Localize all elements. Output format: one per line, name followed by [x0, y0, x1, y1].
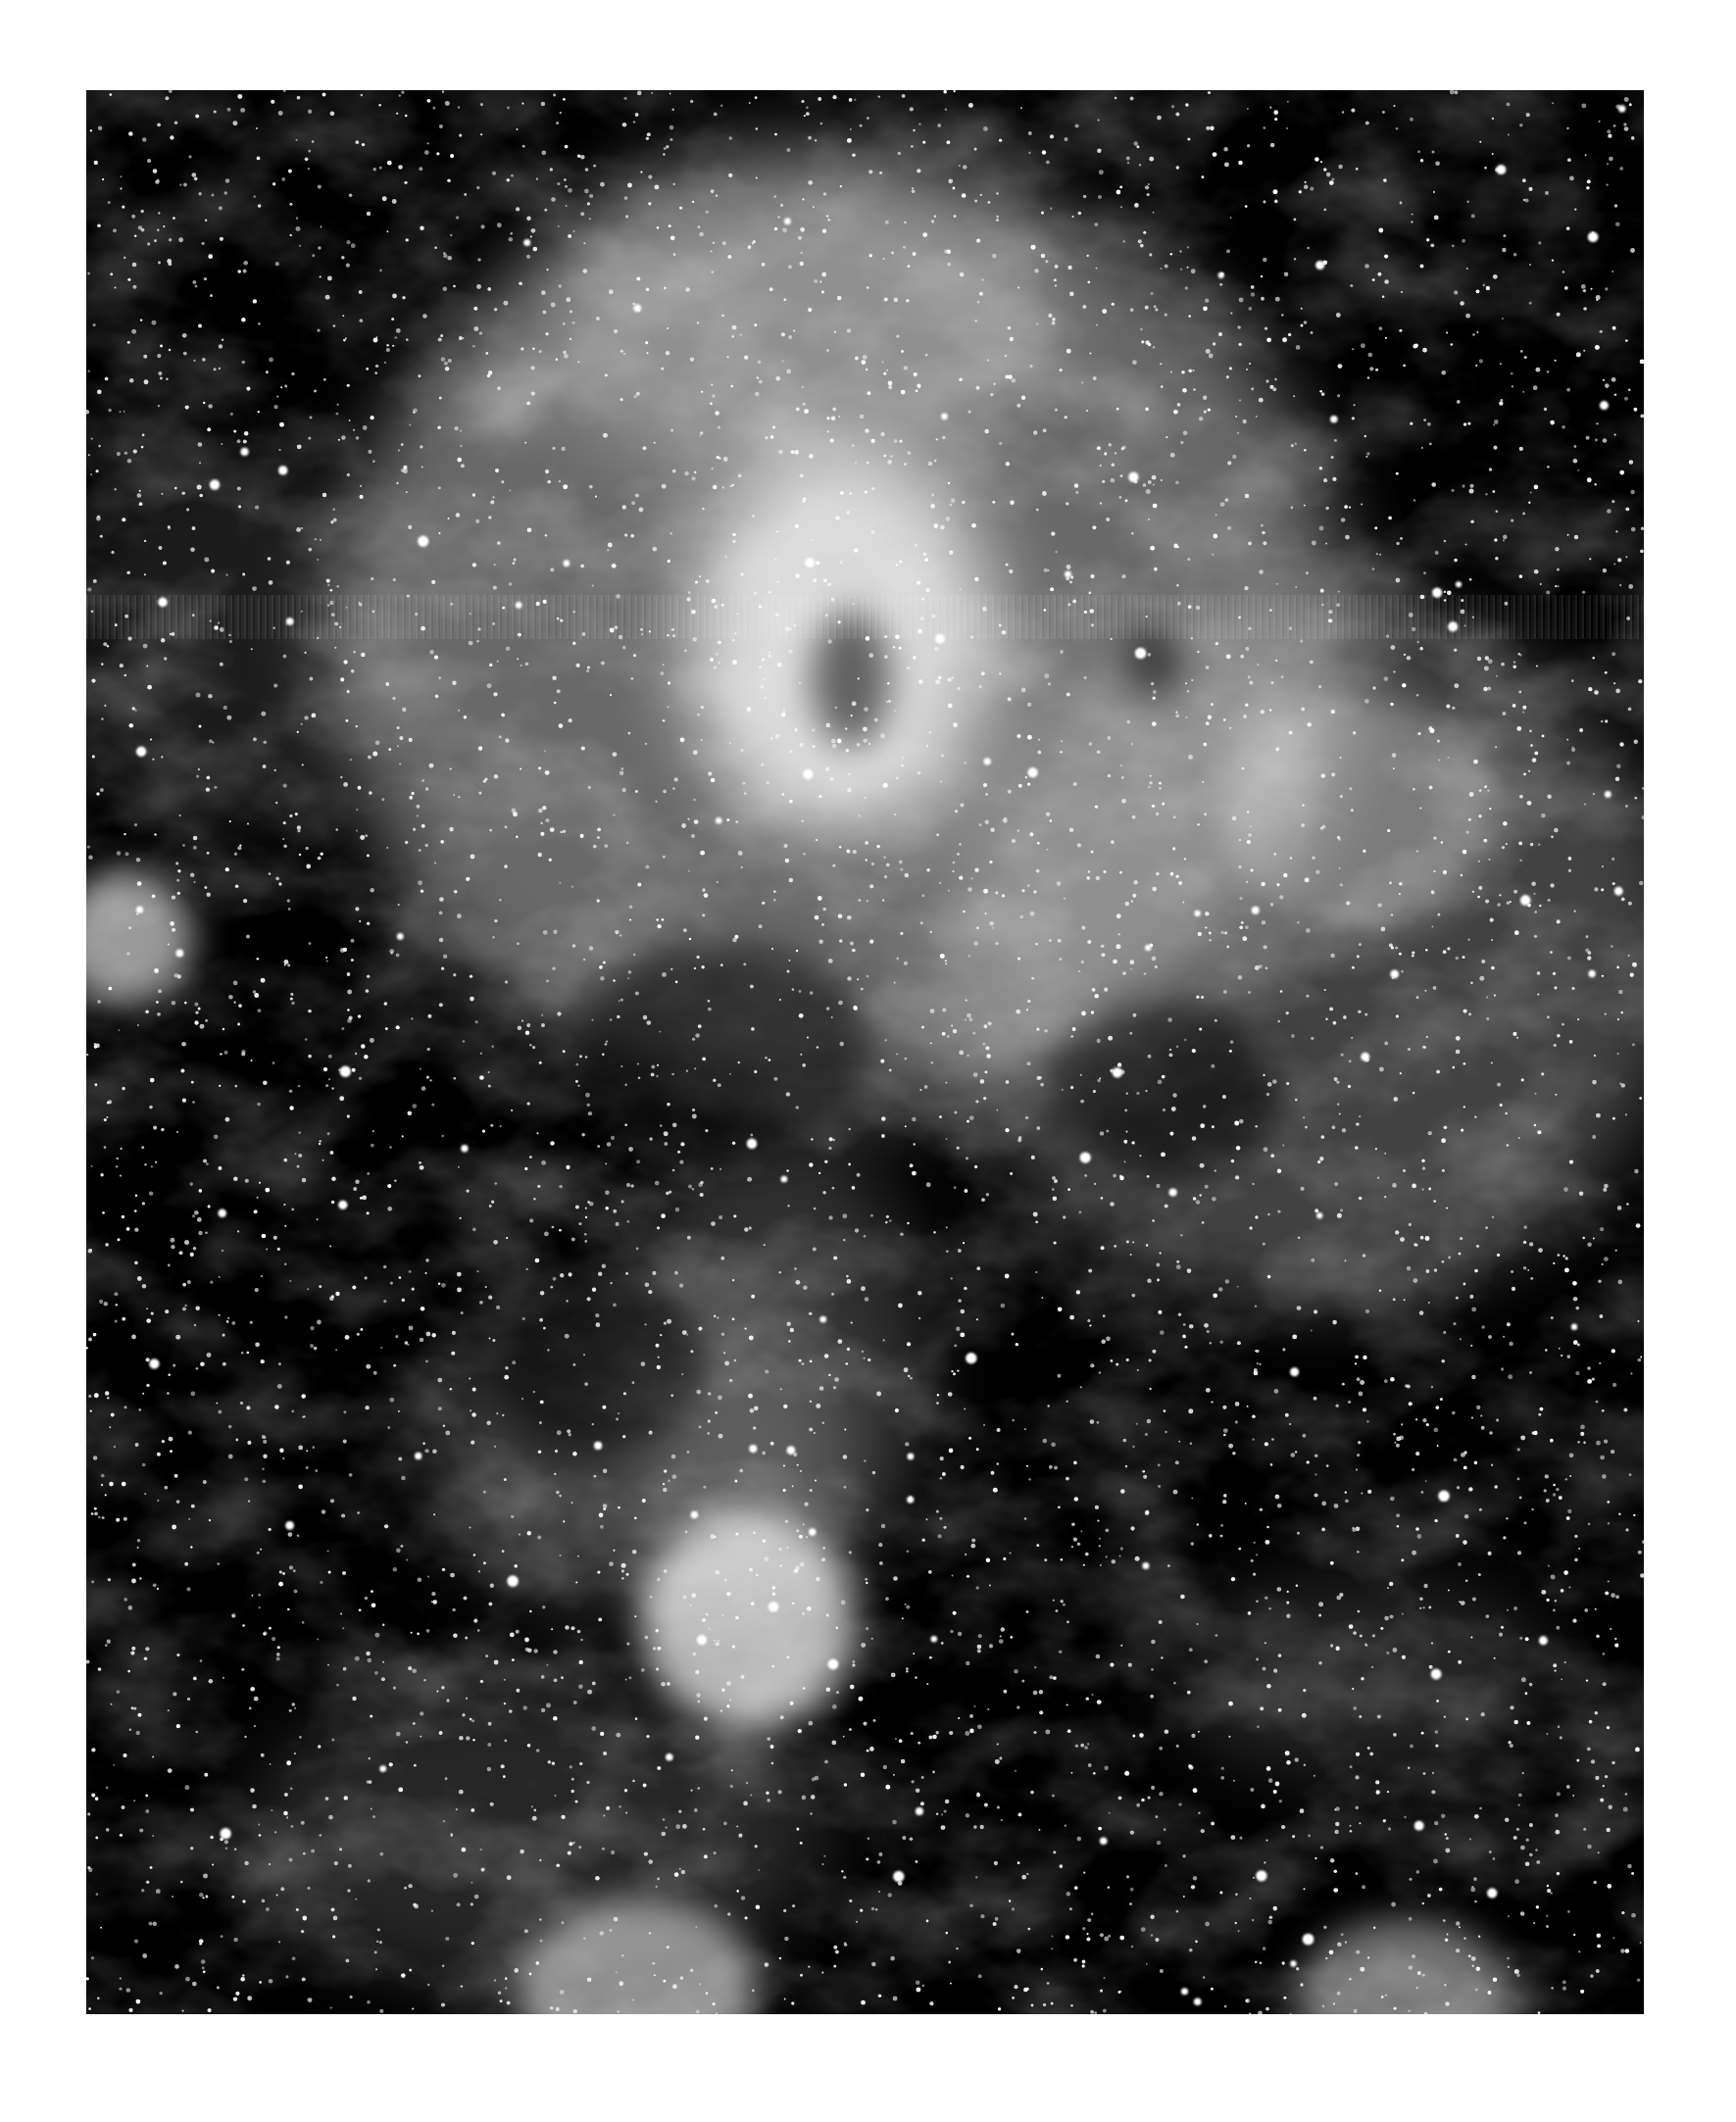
nebula-photograph: [86, 90, 1644, 2014]
star-field-canvas: [86, 90, 1644, 2014]
